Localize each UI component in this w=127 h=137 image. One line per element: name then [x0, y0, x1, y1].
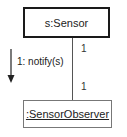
observer-object-label: :SensorObserver — [26, 108, 109, 120]
sensor-object-box: s:Sensor — [23, 7, 110, 38]
sensor-object-label: s:Sensor — [45, 17, 88, 29]
multiplicity-observer-end: 1 — [81, 81, 87, 92]
message-arrow-down-icon — [6, 49, 16, 83]
association-link — [72, 38, 73, 100]
multiplicity-sensor-end: 1 — [81, 43, 87, 54]
observer-object-box: :SensorObserver — [23, 100, 112, 128]
message-label: 1: notify(s) — [17, 56, 64, 67]
